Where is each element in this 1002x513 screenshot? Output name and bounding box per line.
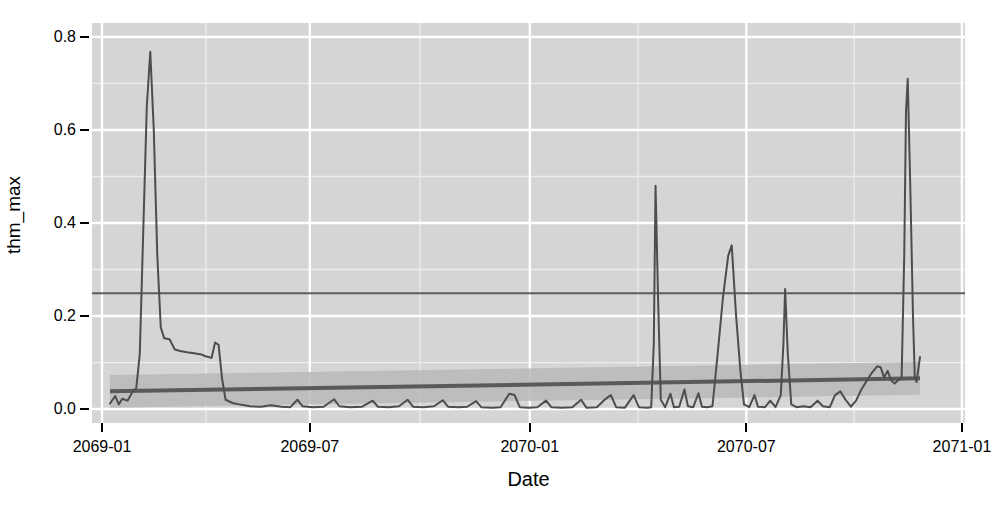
y-tick-mark <box>80 315 89 317</box>
y-tick-label: 0.2 <box>34 307 76 325</box>
x-tick-mark <box>309 423 311 432</box>
x-tick-mark <box>529 423 531 432</box>
y-tick-mark <box>80 129 89 131</box>
x-tick-label: 2070-07 <box>717 438 776 456</box>
x-tick-label: 2069-07 <box>280 438 339 456</box>
plot-panel <box>92 23 965 423</box>
x-tick-label: 2069-01 <box>73 438 132 456</box>
x-tick-mark <box>101 423 103 432</box>
y-tick-label: 0.8 <box>34 28 76 46</box>
y-tick-mark <box>80 408 89 410</box>
y-tick-label: 0.4 <box>34 214 76 232</box>
x-axis-title: Date <box>92 468 965 491</box>
y-tick-label: 0.0 <box>34 400 76 418</box>
x-tick-mark <box>745 423 747 432</box>
plot-svg <box>92 23 965 423</box>
y-tick-label: 0.6 <box>34 121 76 139</box>
series-line-thm-max <box>110 52 920 408</box>
y-tick-mark <box>80 222 89 224</box>
chart-container: thm_max 0.00.20.40.60.8 2069-012069-0720… <box>0 0 1002 513</box>
x-tick-mark <box>961 423 963 432</box>
y-tick-mark <box>80 36 89 38</box>
y-axis-title: thm_max <box>0 0 28 430</box>
x-tick-label: 2071-01 <box>933 438 992 456</box>
x-tick-label: 2070-01 <box>500 438 559 456</box>
y-axis-tick-labels: 0.00.20.40.60.8 <box>30 0 76 513</box>
